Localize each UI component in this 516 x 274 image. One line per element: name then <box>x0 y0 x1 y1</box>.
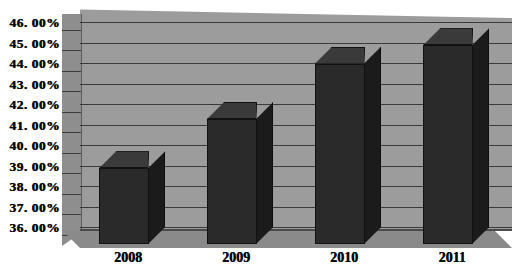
x-axis-tick-label: 2010 <box>330 250 358 266</box>
bar <box>315 64 365 244</box>
bar-front-face <box>99 168 149 244</box>
y-axis-tick-label: 37. 00% <box>9 200 60 216</box>
y-axis-tick-mark <box>62 194 81 195</box>
y-axis-tick-mark <box>62 50 81 51</box>
y-axis-tick-mark <box>62 153 81 154</box>
x-axis-tick-label: 2009 <box>222 250 250 266</box>
y-axis-tick-label: 36. 00% <box>9 220 60 236</box>
y-axis-tick-label: 46. 00% <box>9 15 60 31</box>
y-axis: 36. 00%37. 00%38. 00%39. 00%40. 00%41. 0… <box>0 0 62 274</box>
y-axis-tick-label: 40. 00% <box>9 138 60 154</box>
plot-area <box>62 4 512 248</box>
y-axis-tick-label: 43. 00% <box>9 77 60 93</box>
y-axis-tick-mark <box>62 173 81 174</box>
y-axis-tick-mark <box>62 71 81 72</box>
bar-front-face <box>423 45 473 244</box>
y-axis-tick-mark <box>62 30 81 31</box>
y-axis-tick-label: 44. 00% <box>9 56 60 72</box>
bar-front-face <box>207 119 257 244</box>
x-axis: 2008200920102011 <box>62 248 516 274</box>
y-axis-tick-mark <box>62 91 81 92</box>
bar <box>207 119 257 244</box>
y-axis-tick-mark <box>62 132 81 133</box>
y-axis-tick-label: 38. 00% <box>9 179 60 195</box>
x-axis-tick-label: 2008 <box>114 250 142 266</box>
y-axis-tick-label: 42. 00% <box>9 97 60 113</box>
bar-chart: 36. 00%37. 00%38. 00%39. 00%40. 00%41. 0… <box>0 0 516 274</box>
bar-side-face <box>472 28 489 244</box>
bar-side-face <box>364 47 381 244</box>
bar <box>99 168 149 244</box>
y-axis-tick-label: 41. 00% <box>9 118 60 134</box>
plot-left-wall <box>62 14 82 246</box>
y-axis-tick-mark <box>62 214 81 215</box>
y-axis-tick-mark <box>62 112 81 113</box>
bar <box>423 45 473 244</box>
x-axis-tick-label: 2011 <box>438 250 465 266</box>
y-axis-tick-label: 45. 00% <box>9 36 60 52</box>
bar-front-face <box>315 64 365 244</box>
y-axis-tick-label: 39. 00% <box>9 159 60 175</box>
bar-side-face <box>256 102 273 244</box>
